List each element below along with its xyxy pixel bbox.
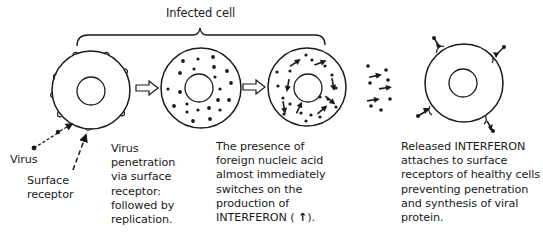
viral-particles — [166, 55, 233, 123]
step2-text-end: ). — [307, 211, 315, 224]
process-arrow-2-icon — [243, 80, 265, 94]
step1-description: Virus penetration via surface receptor: … — [111, 142, 175, 227]
arrow-up-icon: ↑ — [298, 211, 307, 224]
virus-entering-icon — [32, 124, 72, 150]
surface-receptor-pointer — [73, 135, 86, 170]
virus-label: Virus — [10, 153, 38, 167]
infected-cell-bracket — [77, 28, 325, 46]
interferon-diagram: Infected cell Virus Surface receptor Vir… — [0, 0, 543, 237]
step2-description: The presence of foreign nucleic acid alm… — [216, 140, 326, 225]
cell-3-interferon-producing — [268, 48, 346, 126]
step3-description: Released INTERFERON attaches to surface … — [401, 140, 540, 225]
interferon-arrow-icon — [280, 57, 337, 117]
infected-cell-label: Infected cell — [166, 6, 235, 20]
bound-interferon-icon — [416, 36, 506, 133]
cell-4-protected — [416, 36, 506, 133]
cell-2-replicating — [161, 48, 241, 128]
released-interferon-cluster — [366, 64, 392, 112]
surface-receptor-label: Surface receptor — [27, 174, 73, 202]
process-arrow-1-icon — [136, 81, 158, 95]
